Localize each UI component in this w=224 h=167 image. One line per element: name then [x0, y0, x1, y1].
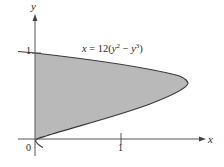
eq-exp2: 3 [136, 42, 140, 50]
x-tick-label: 1 [118, 143, 123, 153]
plot-canvas [0, 0, 224, 167]
x-axis-label: x [208, 134, 213, 145]
eq-coef: 12 [98, 43, 109, 54]
eq-exp1: 2 [117, 42, 121, 50]
y-tick-label: 1 [26, 46, 31, 56]
eq-lhs: x [82, 43, 87, 54]
y-axis-arrow-icon [33, 14, 38, 21]
origin-label: 0 [26, 143, 31, 153]
curve-equation-label: x = 12(y2 − y3) [82, 43, 143, 55]
x-axis-arrow-icon [199, 137, 206, 142]
y-axis-label: y [31, 1, 36, 12]
eq-op: − [123, 43, 129, 54]
region-body [35, 53, 188, 139]
